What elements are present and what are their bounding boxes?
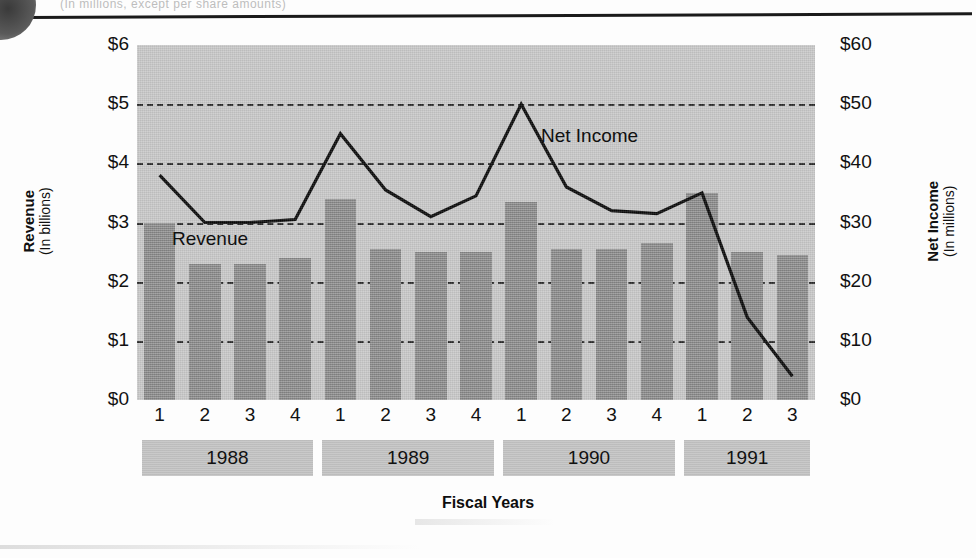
net-income-line — [137, 45, 815, 400]
x-axis-quarter-label: 3 — [235, 404, 265, 426]
x-axis-quarter-label: 3 — [777, 404, 807, 426]
x-axis-quarter-label: 3 — [416, 404, 446, 426]
net-income-series-annotation: Net Income — [541, 125, 638, 147]
y-axis-left-title: Revenue (In billions) — [21, 146, 53, 296]
y-axis-right-title: Net Income (In millions) — [925, 146, 957, 296]
dual-axis-revenue-net-income-chart: Revenue (In billions) Net Income (In mil… — [0, 0, 976, 558]
y-axis-right-title-sub: (In millions) — [942, 146, 958, 296]
x-axis-quarter-label: 2 — [371, 404, 401, 426]
x-axis-title: Fiscal Years — [0, 494, 976, 512]
x-axis-quarter-label: 4 — [280, 404, 310, 426]
x-axis-year-label: 1990 — [568, 447, 610, 469]
y-axis-right-tick-50: $50 — [840, 92, 894, 114]
y-axis-left-tick-3: $3 — [75, 211, 129, 233]
cropped-header-text: (In millions, except per share amounts) — [60, 0, 480, 11]
x-axis-year-band: 1990 — [503, 440, 675, 476]
x-axis-quarter-label: 1 — [145, 404, 175, 426]
x-axis-year-band: 1989 — [322, 440, 494, 476]
x-axis-quarter-label: 1 — [506, 404, 536, 426]
y-axis-left-tick-0: $0 — [75, 388, 129, 410]
y-axis-left-title-sub: (In billions) — [38, 146, 54, 296]
x-axis-year-label: 1989 — [387, 447, 429, 469]
y-axis-left-tick-5: $5 — [75, 92, 129, 114]
y-axis-right-tick-40: $40 — [840, 151, 894, 173]
x-axis-quarter-label: 3 — [597, 404, 627, 426]
y-axis-right-tick-0: $0 — [840, 388, 894, 410]
y-axis-right-title-main: Net Income — [924, 181, 941, 262]
y-axis-right-tick-60: $60 — [840, 33, 894, 55]
x-axis-quarter-label: 1 — [325, 404, 355, 426]
x-axis-quarter-label: 2 — [732, 404, 762, 426]
y-axis-right-tick-30: $30 — [840, 211, 894, 233]
y-axis-left-tick-1: $1 — [75, 329, 129, 351]
x-axis-quarter-label: 1 — [687, 404, 717, 426]
y-axis-right-tick-20: $20 — [840, 270, 894, 292]
y-axis-left-tick-4: $4 — [75, 151, 129, 173]
x-axis-quarter-label: 2 — [190, 404, 220, 426]
x-axis-quarter-label: 4 — [461, 404, 491, 426]
y-axis-left-tick-6: $6 — [75, 33, 129, 55]
x-axis-quarter-label: 4 — [642, 404, 672, 426]
y-axis-left-title-main: Revenue — [20, 190, 37, 253]
x-axis-year-band: 1988 — [142, 440, 314, 476]
x-axis-quarter-label: 2 — [551, 404, 581, 426]
plot-area — [137, 45, 815, 400]
x-axis-year-label: 1988 — [206, 447, 248, 469]
x-axis-year-band: 1991 — [684, 440, 811, 476]
revenue-series-annotation: Revenue — [172, 228, 248, 250]
x-axis-year-label: 1991 — [726, 447, 768, 469]
y-axis-left-tick-2: $2 — [75, 270, 129, 292]
y-axis-right-tick-10: $10 — [840, 329, 894, 351]
